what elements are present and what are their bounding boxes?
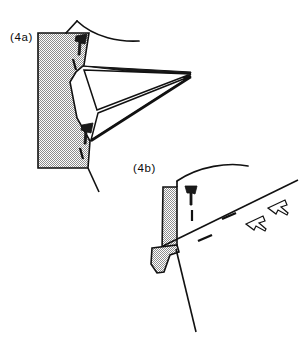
figure-root: (4a) (4b) (0, 0, 302, 346)
panel-label-4a: (4a) (10, 31, 33, 43)
panel-label-4b: (4b) (133, 162, 156, 174)
technical-drawing-svg: (4a) (4b) (0, 0, 302, 346)
